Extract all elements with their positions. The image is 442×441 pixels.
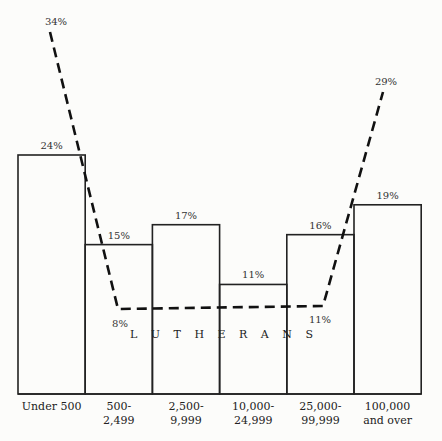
series-annotation: L U T H E R A N S (130, 328, 318, 341)
bar-0 (18, 155, 85, 394)
x-axis-label: 2,499 (103, 414, 135, 427)
x-axis-label: 24,999 (234, 414, 273, 427)
x-axis-label: 2,500- (168, 400, 203, 413)
bar-value-label: 16% (309, 220, 331, 231)
bar-5 (354, 205, 421, 394)
x-axis-label: 99,999 (301, 414, 340, 427)
x-axis-label: 10,000- (232, 400, 274, 413)
bar-value-label: 11% (242, 269, 264, 280)
bar-value-label: 17% (175, 210, 197, 221)
bar-line-chart: 24%15%17%11%16%19%Under 500500-2,4992,50… (0, 0, 442, 441)
lutherans-dashed-line (50, 32, 383, 309)
x-axis-label: 25,000- (299, 400, 341, 413)
line-value-label: 11% (309, 314, 331, 325)
bar-value-label: 15% (108, 230, 130, 241)
x-axis-label: and over (363, 414, 413, 427)
bar-value-label: 19% (376, 190, 398, 201)
x-axis-label: Under 500 (22, 400, 82, 413)
line-value-label: 29% (375, 76, 397, 87)
x-axis-label: 9,999 (170, 414, 202, 427)
bar-value-label: 24% (40, 140, 62, 151)
line-value-label: 8% (112, 318, 128, 329)
x-axis-label: 100,000 (365, 400, 411, 413)
line-value-label: 34% (45, 16, 67, 27)
x-axis-label: 500- (106, 400, 131, 413)
chart-root: 24%15%17%11%16%19%Under 500500-2,4992,50… (0, 0, 442, 441)
